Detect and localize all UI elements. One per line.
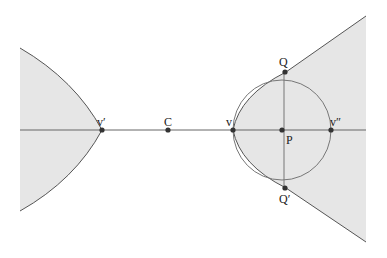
- diagram-canvas: [0, 0, 387, 258]
- hyperbola-diagram: v′ C v P v″ Q Q′: [0, 0, 387, 258]
- label-Q-prime: Q′: [279, 193, 290, 205]
- label-v-prime: v′: [97, 116, 106, 128]
- point-Q: [282, 69, 287, 74]
- right-branch-region: [233, 16, 366, 242]
- label-C: C: [164, 116, 172, 128]
- label-P: P: [286, 134, 293, 146]
- point-P: [279, 127, 284, 132]
- point-Q-prime: [282, 185, 287, 190]
- label-Q: Q: [279, 56, 288, 68]
- label-v: v: [226, 116, 232, 128]
- label-v-double-prime: v″: [330, 116, 341, 128]
